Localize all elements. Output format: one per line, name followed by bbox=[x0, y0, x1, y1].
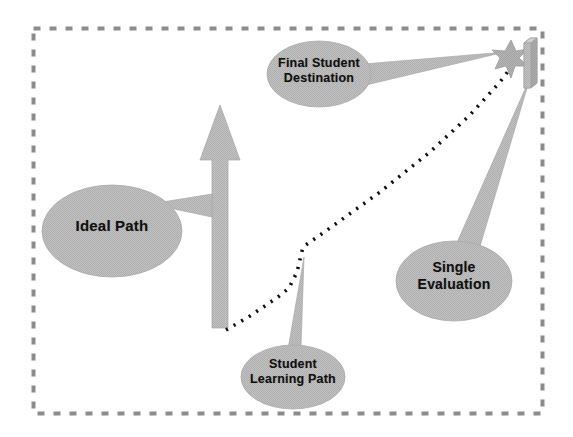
final-student-destination-callout-tail bbox=[364, 52, 505, 85]
student-learning-path-ellipse[interactable] bbox=[241, 345, 345, 409]
final-student-destination-ellipse[interactable] bbox=[267, 41, 371, 107]
destination-star-icon bbox=[492, 40, 528, 78]
single-evaluation-ellipse[interactable] bbox=[396, 241, 512, 321]
evaluation-bar bbox=[524, 38, 537, 88]
ideal-path-arrow bbox=[200, 105, 240, 328]
diagram-canvas: Ideal Path Final Student Destination Stu… bbox=[0, 0, 573, 437]
diagram-svg bbox=[0, 0, 573, 437]
ideal-path-ellipse[interactable] bbox=[42, 185, 182, 277]
